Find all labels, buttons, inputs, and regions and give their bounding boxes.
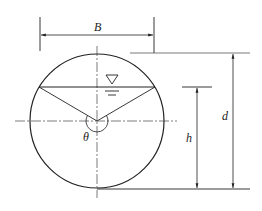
diameter-label-d: d <box>222 109 229 123</box>
depth-label-h: h <box>186 131 192 145</box>
angle-label-theta: θ <box>83 130 89 144</box>
pipe-cross-section-diagram: B d h θ <box>0 0 262 211</box>
water-level-symbol-icon <box>105 75 119 95</box>
radius-right <box>97 87 155 121</box>
width-label-b: B <box>94 20 102 34</box>
radius-left <box>39 87 97 121</box>
